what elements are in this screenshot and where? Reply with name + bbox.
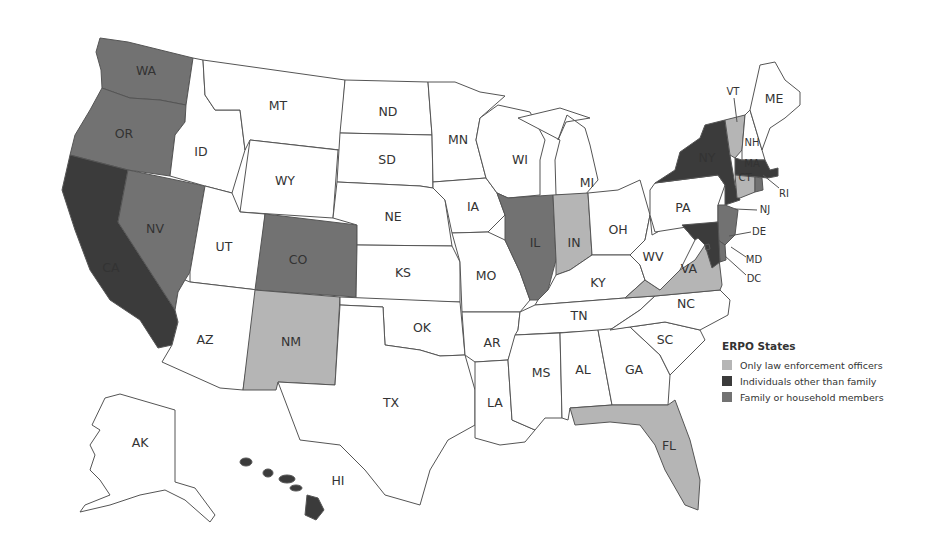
label-CO: CO <box>289 252 308 267</box>
legend-swatch-others <box>722 376 732 386</box>
leader-MD <box>731 247 746 257</box>
legend-label-others: Individuals other than family <box>740 376 877 387</box>
legend-item-law: Only law enforcement officers <box>722 358 884 372</box>
label-WV: WV <box>643 249 664 264</box>
state-RI[interactable] <box>755 177 763 192</box>
label-VA: VA <box>681 261 698 276</box>
label-DC: DC <box>747 273 762 284</box>
label-AK: AK <box>132 435 150 450</box>
legend-swatch-law <box>722 360 732 370</box>
label-FL: FL <box>662 438 676 453</box>
us-map: WA OR CA NV ID MT WY UT CO AZ NM ND SD N… <box>0 0 927 550</box>
label-OK: OK <box>413 320 432 335</box>
label-MD: MD <box>746 254 763 265</box>
legend-label-law: Only law enforcement officers <box>740 360 883 371</box>
label-KS: KS <box>395 265 411 280</box>
state-FL[interactable] <box>570 400 700 510</box>
label-NH: NH <box>745 137 760 148</box>
legend-title: ERPO States <box>722 340 884 352</box>
label-WA: WA <box>136 63 157 78</box>
label-ID: ID <box>194 144 207 159</box>
label-PA: PA <box>675 200 691 215</box>
label-MA: MA <box>744 158 760 169</box>
label-SC: SC <box>657 332 674 347</box>
label-WY: WY <box>275 173 295 188</box>
label-GA: GA <box>625 362 644 377</box>
label-WI: WI <box>512 152 528 167</box>
label-NV: NV <box>146 221 164 236</box>
label-ND: ND <box>379 104 398 119</box>
label-TN: TN <box>570 308 588 323</box>
state-MS[interactable] <box>508 333 562 430</box>
legend: ERPO States Only law enforcement officer… <box>722 340 884 406</box>
label-OH: OH <box>608 222 627 237</box>
label-AL: AL <box>575 362 591 377</box>
label-OR: OR <box>115 126 134 141</box>
state-HI[interactable] <box>240 458 324 520</box>
label-HI: HI <box>331 473 344 488</box>
label-DE: DE <box>752 226 766 237</box>
label-NC: NC <box>677 296 695 311</box>
label-LA: LA <box>487 395 503 410</box>
label-VT: VT <box>727 86 741 97</box>
label-SD: SD <box>378 152 396 167</box>
label-NJ: NJ <box>760 204 770 215</box>
leader-DC <box>725 256 746 275</box>
label-KY: KY <box>590 275 606 290</box>
label-NY: NY <box>699 150 716 165</box>
legend-label-family: Family or household members <box>740 392 884 403</box>
label-MT: MT <box>269 98 288 113</box>
label-MO: MO <box>476 268 497 283</box>
label-MN: MN <box>448 132 468 147</box>
label-IA: IA <box>467 199 480 214</box>
label-CT: CT <box>738 172 752 183</box>
label-AZ: AZ <box>196 332 213 347</box>
label-MS: MS <box>532 365 551 380</box>
label-AR: AR <box>483 335 501 350</box>
label-RI: RI <box>779 188 789 199</box>
legend-item-others: Individuals other than family <box>722 374 884 388</box>
label-MI: MI <box>580 175 594 190</box>
state-NJ[interactable] <box>718 205 738 245</box>
label-IN: IN <box>567 235 580 250</box>
label-NE: NE <box>384 209 401 224</box>
label-IL: IL <box>530 235 541 250</box>
state-AK[interactable] <box>80 394 215 522</box>
legend-swatch-family <box>722 392 732 402</box>
label-NM: NM <box>281 334 301 349</box>
legend-item-family: Family or household members <box>722 390 884 404</box>
label-TX: TX <box>382 395 400 410</box>
label-ME: ME <box>765 91 784 106</box>
label-UT: UT <box>216 239 233 254</box>
state-DC[interactable] <box>705 244 710 250</box>
label-CA: CA <box>102 260 120 275</box>
